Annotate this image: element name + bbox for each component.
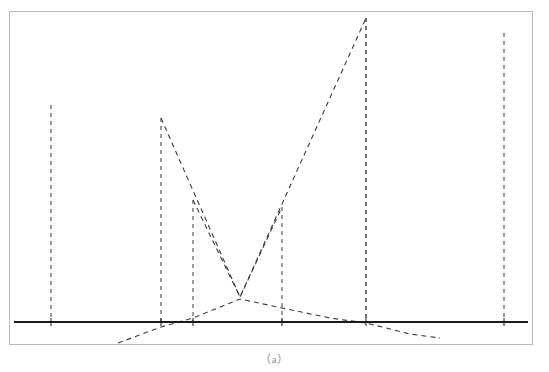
figure-caption: （a） [0,350,549,366]
plot-frame [9,11,533,345]
figure-root: （a） [0,0,549,372]
